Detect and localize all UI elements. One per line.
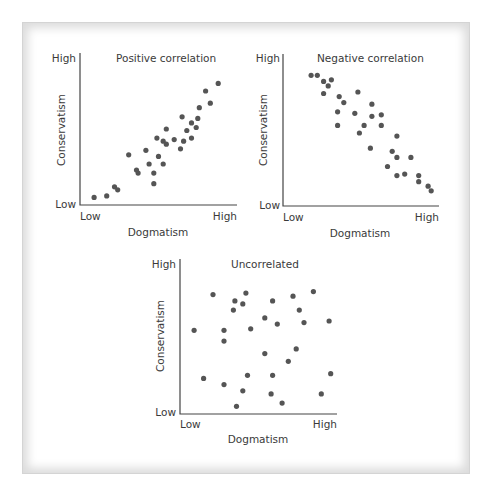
- axes: [80, 53, 237, 205]
- y-axis-label: Conservatism: [55, 94, 67, 166]
- data-point: [172, 137, 177, 142]
- data-point: [234, 404, 239, 409]
- data-point: [240, 301, 245, 306]
- data-point: [408, 155, 413, 160]
- data-point: [357, 130, 362, 135]
- data-point: [115, 187, 120, 192]
- data-point: [319, 391, 324, 396]
- data-point: [335, 123, 340, 128]
- data-point: [154, 136, 159, 141]
- data-point: [321, 91, 326, 96]
- chart-title: Negative correlation: [317, 52, 424, 64]
- chart-uncorrelated: Uncorrelated High Low Low High Dogmatism…: [152, 258, 337, 445]
- y-tick-low: Low: [55, 198, 76, 210]
- data-point: [362, 123, 367, 128]
- data-point: [309, 73, 314, 78]
- data-point: [335, 109, 340, 114]
- data-point: [262, 351, 267, 356]
- data-point: [161, 161, 166, 166]
- data-point: [394, 173, 399, 178]
- data-point: [394, 155, 399, 160]
- chart-title: Uncorrelated: [231, 258, 299, 270]
- data-point: [192, 328, 197, 333]
- data-point: [180, 114, 185, 119]
- data-point: [327, 318, 332, 323]
- data-point: [221, 382, 226, 387]
- data-point: [221, 328, 226, 333]
- data-point: [232, 298, 237, 303]
- data-point: [369, 114, 374, 119]
- data-point: [216, 81, 221, 86]
- data-point: [311, 289, 316, 294]
- data-point: [297, 308, 302, 313]
- data-point: [245, 373, 250, 378]
- chart-positive-correlation: Positive correlation High Low Low High D…: [52, 52, 237, 238]
- data-points: [309, 73, 434, 194]
- data-points: [92, 81, 221, 200]
- data-point: [201, 376, 206, 381]
- data-point: [203, 88, 208, 93]
- data-point: [248, 326, 253, 331]
- data-point: [197, 105, 202, 110]
- data-point: [240, 388, 245, 393]
- data-point: [189, 120, 194, 125]
- y-tick-low: Low: [259, 199, 280, 211]
- data-point: [208, 101, 213, 106]
- data-point: [195, 116, 200, 121]
- data-point: [294, 346, 299, 351]
- data-point: [270, 298, 275, 303]
- data-point: [136, 171, 141, 176]
- data-point: [416, 173, 421, 178]
- data-point: [280, 401, 285, 406]
- axes: [180, 259, 337, 414]
- data-point: [243, 291, 248, 296]
- data-point: [290, 294, 295, 299]
- data-point: [231, 308, 236, 313]
- charts-canvas: Positive correlation High Low Low High D…: [0, 0, 486, 489]
- data-point: [147, 161, 152, 166]
- y-tick-high: High: [152, 258, 176, 270]
- data-point: [262, 315, 267, 320]
- data-point: [181, 139, 186, 144]
- data-point: [126, 152, 131, 157]
- data-point: [164, 142, 169, 147]
- data-point: [194, 125, 199, 130]
- data-point: [156, 154, 161, 159]
- x-tick-low: Low: [283, 211, 304, 223]
- data-point: [390, 149, 395, 154]
- x-tick-high: High: [213, 210, 237, 222]
- data-point: [385, 164, 390, 169]
- x-tick-high: High: [313, 418, 337, 430]
- x-tick-low: Low: [180, 418, 201, 430]
- y-axis-label: Conservatism: [257, 94, 269, 166]
- data-point: [379, 112, 384, 117]
- data-point: [368, 146, 373, 151]
- data-point: [352, 111, 357, 116]
- data-point: [369, 102, 374, 107]
- data-point: [151, 171, 156, 176]
- x-axis-label: Dogmatism: [228, 433, 289, 445]
- data-point: [301, 320, 306, 325]
- data-point: [189, 136, 194, 141]
- data-point: [286, 359, 291, 364]
- data-point: [402, 172, 407, 177]
- data-point: [104, 193, 109, 198]
- data-point: [143, 148, 148, 153]
- data-point: [210, 292, 215, 297]
- data-point: [337, 94, 342, 99]
- data-point: [341, 100, 346, 105]
- y-tick-low: Low: [155, 406, 176, 418]
- data-point: [184, 128, 189, 133]
- x-tick-high: High: [415, 211, 439, 223]
- data-point: [269, 391, 274, 396]
- data-point: [321, 79, 326, 84]
- data-point: [275, 322, 280, 327]
- data-point: [328, 371, 333, 376]
- x-axis-label: Dogmatism: [128, 226, 189, 238]
- data-points: [192, 289, 334, 409]
- data-point: [270, 373, 275, 378]
- data-point: [221, 339, 226, 344]
- y-tick-high: High: [52, 52, 76, 64]
- y-axis-label: Conservatism: [154, 300, 166, 372]
- data-point: [151, 181, 156, 186]
